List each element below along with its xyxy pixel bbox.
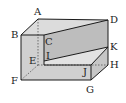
vertex-label-j: J — [82, 66, 87, 77]
vertex-label-e: E — [29, 55, 36, 66]
vertex-label-k: K — [110, 41, 118, 52]
vertex-label-d: D — [110, 14, 118, 25]
vertex-label-h: H — [110, 59, 119, 70]
vertex-label-a: A — [33, 6, 42, 17]
vertex-label-g: G — [86, 84, 94, 95]
vertex-label-b: B — [11, 29, 18, 40]
vertex-label-c: C — [45, 36, 53, 47]
vertex-label-f: F — [11, 75, 18, 86]
vertex-label-i: I — [46, 50, 50, 61]
solid-diagram: A B C D E F G H I J K — [0, 0, 126, 103]
